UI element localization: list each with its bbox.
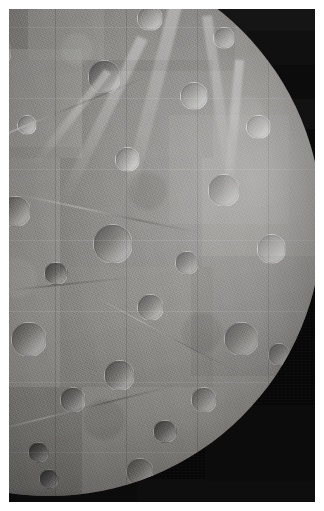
- mercury-photomosaic-page: Mercury photomosaic Mariner 10 style pho…: [0, 0, 324, 511]
- mercury-disk: [9, 9, 315, 496]
- image-frame: [9, 9, 315, 502]
- limb-darkening-vertical: [9, 9, 315, 496]
- planet-disk-container: [9, 9, 315, 502]
